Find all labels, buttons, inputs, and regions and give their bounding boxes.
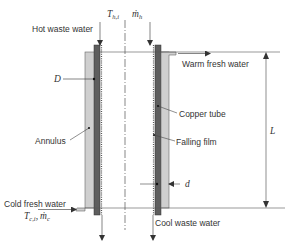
- symbol-T-hi: Th,i: [107, 9, 119, 20]
- symbol-d: d: [185, 179, 190, 189]
- left-copper-tube: [94, 45, 100, 215]
- heat-exchanger-diagram: Hot waste water Warm fresh water Copper …: [0, 0, 294, 246]
- label-cool-waste-water: Cool waste water: [155, 218, 220, 228]
- label-warm-fresh-water: Warm fresh water: [182, 59, 249, 69]
- right-annulus: [161, 52, 169, 208]
- label-annulus: Annulus: [35, 136, 66, 146]
- right-copper-tube: [155, 45, 161, 215]
- label-hot-waste-water: Hot waste water: [32, 24, 93, 34]
- cold-water-inlet: [76, 208, 85, 211]
- symbol-m-h: ṁh: [132, 9, 142, 20]
- label-falling-film: Falling film: [176, 137, 217, 147]
- symbol-T-ci-m-c: Tc,i,ṁc: [24, 211, 50, 222]
- label-copper-tube: Copper tube: [179, 109, 226, 119]
- left-annulus: [85, 52, 95, 208]
- symbol-D: D: [53, 74, 61, 84]
- label-cold-fresh-water: Cold fresh water: [4, 199, 66, 209]
- symbol-L: L: [269, 126, 275, 136]
